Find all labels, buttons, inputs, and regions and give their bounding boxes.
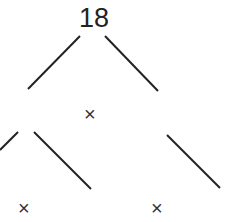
branch-left-left xyxy=(0,132,18,150)
branch-root-right xyxy=(105,36,158,91)
factor-tree-branches xyxy=(0,0,232,222)
branch-root-left xyxy=(28,36,80,89)
branch-right-right xyxy=(167,135,220,188)
branch-left-right xyxy=(34,132,91,189)
multiply-marker-bottom-left: × xyxy=(18,198,30,218)
root-number: 18 xyxy=(79,5,109,32)
multiply-marker-middle: × xyxy=(84,104,96,124)
multiply-marker-bottom-right: × xyxy=(151,198,163,218)
